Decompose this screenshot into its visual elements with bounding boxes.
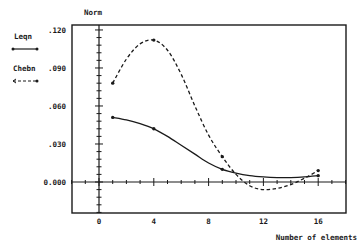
data-point-marker xyxy=(152,127,155,130)
y-tick-label: 0.000 xyxy=(43,178,66,187)
x-tick-label: 4 xyxy=(152,217,157,226)
x-tick-label: 12 xyxy=(259,217,268,226)
data-point-marker xyxy=(221,155,224,158)
y-tick-label: .060 xyxy=(48,102,67,111)
y-tick-label: .120 xyxy=(48,26,67,35)
x-axis-title: Number of elements xyxy=(276,233,357,242)
axes: 04812160.000.030.060.090.120 xyxy=(43,25,346,226)
series xyxy=(111,38,320,189)
legend-swatch-dashed-icon xyxy=(13,79,39,83)
legend-label-chebn: Chebn xyxy=(13,64,36,73)
data-point-marker xyxy=(221,168,224,171)
legend: Leqn Chebn xyxy=(12,32,39,83)
data-point-marker xyxy=(111,116,114,119)
x-tick-label: 16 xyxy=(314,217,324,226)
data-point-marker xyxy=(317,174,320,177)
data-point-marker xyxy=(317,169,320,172)
x-tick-label: 0 xyxy=(97,217,102,226)
data-point-marker xyxy=(111,81,114,84)
y-tick-label: .090 xyxy=(48,64,67,73)
y-tick-label: .030 xyxy=(48,140,67,149)
legend-swatch-solid-icon xyxy=(12,48,39,51)
y-axis-title: Norm xyxy=(84,8,103,17)
series-line-chebn xyxy=(113,40,319,190)
legend-label-leqn: Leqn xyxy=(14,32,32,41)
data-point-marker xyxy=(152,38,155,41)
line-chart: 04812160.000.030.060.090.120 Norm Number… xyxy=(0,0,358,244)
x-tick-label: 8 xyxy=(206,217,211,226)
